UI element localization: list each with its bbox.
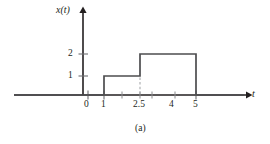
y-tick-label-2: 2 (68, 49, 73, 59)
figure-panel: x(t) t 2 1 0 1 2.5 4 5 (a) (0, 0, 270, 144)
x-axis-label: t (252, 89, 255, 99)
y-tick-label-1: 1 (68, 71, 73, 81)
x-tick-label-4: 4 (169, 100, 174, 110)
x-tick-label-1: 1 (101, 100, 106, 110)
x-tick-label-0: 0 (84, 100, 89, 110)
y-axis-label: x(t) (56, 5, 70, 15)
y-axis-arrowhead (79, 7, 86, 14)
figure-caption: (a) (135, 124, 146, 134)
signal-waveform (14, 54, 244, 95)
x-tick-label-2p5: 2.5 (133, 100, 145, 110)
x-tick-label-5: 5 (193, 100, 198, 110)
